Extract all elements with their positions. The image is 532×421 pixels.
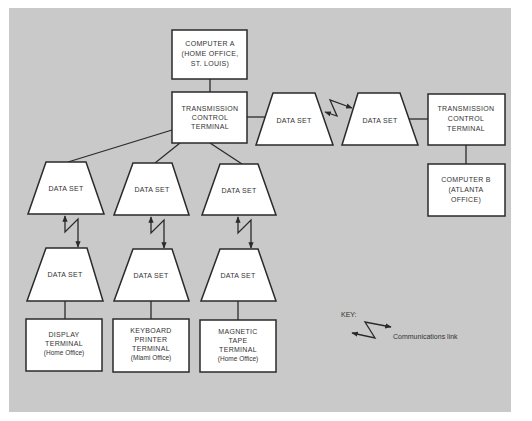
keyboard-line3: TERMINAL <box>132 345 170 352</box>
data-set-top-left: DATA SET <box>256 93 333 145</box>
data-set-col1-upper: DATA SET <box>28 162 104 214</box>
edge-tct-to-col3 <box>210 143 242 164</box>
tct-left-line2: CONTROL <box>192 114 228 121</box>
data-set-col1-lower-label: DATA SET <box>47 271 83 278</box>
comm-link-col2 <box>151 217 164 248</box>
data-set-col2-lower-label: DATA SET <box>133 272 169 279</box>
tct-right-line1: TRANSMISSION <box>438 105 495 112</box>
magnetic-line4: (Home Office) <box>218 355 258 363</box>
computer-a-node: COMPUTER A (HOME OFFICE, ST. LOUIS) <box>172 30 247 79</box>
key-title: KEY: <box>341 311 357 318</box>
magnetic-line2: TAPE <box>229 337 248 344</box>
data-set-col2-lower: DATA SET <box>114 249 189 301</box>
data-set-col3-lower: DATA SET <box>201 249 276 301</box>
computer-b-node: COMPUTER B (ATLANTA OFFICE) <box>428 164 505 216</box>
magnetic-line1: MAGNETIC <box>218 328 257 335</box>
magnetic-tape-terminal-node: MAGNETIC TAPE TERMINAL (Home Office) <box>200 320 276 372</box>
data-set-col2-upper: DATA SET <box>114 163 189 215</box>
computer-b-line3: OFFICE) <box>451 196 481 204</box>
keyboard-line4: (Miami Office) <box>131 354 171 362</box>
display-line2: TERMINAL <box>45 340 83 347</box>
keyboard-line2: PRINTER <box>135 336 168 343</box>
computer-b-line2: (ATLANTA <box>448 186 483 194</box>
data-set-top-left-label: DATA SET <box>276 117 312 124</box>
data-set-col3-upper-label: DATA SET <box>221 187 257 194</box>
data-set-top-right: DATA SET <box>342 93 418 145</box>
computer-a-line3: ST. LOUIS) <box>191 60 229 68</box>
comm-link-col3 <box>238 217 251 248</box>
data-set-col2-upper-label: DATA SET <box>134 186 170 193</box>
data-set-col1-upper-label: DATA SET <box>48 185 84 192</box>
computer-a-line1: COMPUTER A <box>185 40 234 47</box>
tct-left-node: TRANSMISSION CONTROL TERMINAL <box>172 92 247 143</box>
network-diagram: COMPUTER A (HOME OFFICE, ST. LOUIS) TRAN… <box>0 0 532 421</box>
edge-tct-to-col2 <box>155 143 180 163</box>
tct-right-line3: TERMINAL <box>447 125 485 132</box>
tct-right-node: TRANSMISSION CONTROL TERMINAL <box>428 94 505 145</box>
magnetic-line3: TERMINAL <box>219 346 257 353</box>
comm-link-top <box>325 100 352 116</box>
legend-key: KEY: Communications link <box>341 311 458 340</box>
data-set-top-right-label: DATA SET <box>362 117 398 124</box>
display-line3: (Home Office) <box>44 349 84 357</box>
tct-left-line1: TRANSMISSION <box>182 105 239 112</box>
tct-right-line2: CONTROL <box>448 115 484 122</box>
data-set-col1-lower: DATA SET <box>27 248 103 301</box>
data-set-col3-upper: DATA SET <box>202 164 276 215</box>
zigzag-arrow-icon <box>352 322 391 338</box>
display-line1: DISPLAY <box>48 331 79 338</box>
edge-tct-to-col1 <box>68 130 172 162</box>
computer-b-line1: COMPUTER B <box>441 176 491 183</box>
tct-left-line3: TERMINAL <box>191 123 229 130</box>
comm-link-col1 <box>65 216 78 247</box>
keyboard-line1: KEYBOARD <box>130 327 171 334</box>
display-terminal-node: DISPLAY TERMINAL (Home Office) <box>26 319 102 371</box>
computer-a-line2: (HOME OFFICE, <box>182 50 239 58</box>
key-communications-link-label: Communications link <box>393 333 458 340</box>
data-set-col3-lower-label: DATA SET <box>220 272 256 279</box>
keyboard-printer-terminal-node: KEYBOARD PRINTER TERMINAL (Miami Office) <box>113 319 189 372</box>
